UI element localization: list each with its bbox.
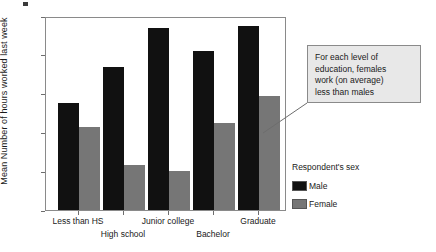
legend-swatch-female-icon bbox=[292, 199, 307, 209]
bar-male-bachelor bbox=[193, 51, 214, 210]
bar-male-high-school bbox=[103, 67, 124, 211]
callout-line-1: For each level of bbox=[315, 52, 413, 64]
legend-label-female: Female bbox=[309, 199, 337, 209]
bar-chart: Mean Number of hours worked last week 50… bbox=[0, 0, 436, 252]
x-label-high-school: High school bbox=[101, 229, 145, 239]
bar-female-junior-college bbox=[169, 171, 190, 210]
legend-item-male: Male bbox=[292, 181, 359, 191]
callout-line-4: less than males bbox=[315, 87, 413, 99]
legend-title: Respondent's sex bbox=[292, 162, 359, 172]
bar-female-less-than-hs bbox=[79, 127, 100, 210]
x-tick-mark bbox=[258, 211, 259, 215]
x-tick-mark bbox=[78, 211, 79, 215]
scan-artifact bbox=[23, 2, 28, 6]
x-label-junior-college: Junior college bbox=[142, 216, 194, 226]
bar-male-less-than-hs bbox=[58, 103, 79, 210]
x-label-less-than-hs: Less than HS bbox=[52, 216, 103, 226]
bar-female-high-school bbox=[124, 165, 145, 210]
bar-female-graduate bbox=[259, 96, 280, 210]
plot-area bbox=[45, 17, 286, 211]
legend-item-female: Female bbox=[292, 199, 359, 209]
x-label-bachelor: Bachelor bbox=[196, 229, 230, 239]
x-tick-mark bbox=[123, 211, 124, 215]
legend-swatch-male-icon bbox=[292, 181, 307, 191]
callout-line-2: education, females bbox=[315, 64, 413, 76]
bar-female-bachelor bbox=[214, 123, 235, 210]
annotation-callout: For each level of education, females wor… bbox=[307, 45, 421, 103]
x-tick-mark bbox=[213, 211, 214, 215]
x-tick-mark bbox=[168, 211, 169, 215]
y-axis-title: Mean Number of hours worked last week bbox=[0, 0, 9, 221]
legend-label-male: Male bbox=[309, 181, 327, 191]
callout-line-3: work (on average) bbox=[315, 75, 413, 87]
x-label-graduate: Graduate bbox=[240, 216, 275, 226]
bar-male-graduate bbox=[238, 26, 259, 210]
legend: Respondent's sex Male Female bbox=[292, 162, 359, 217]
bar-male-junior-college bbox=[148, 28, 169, 210]
